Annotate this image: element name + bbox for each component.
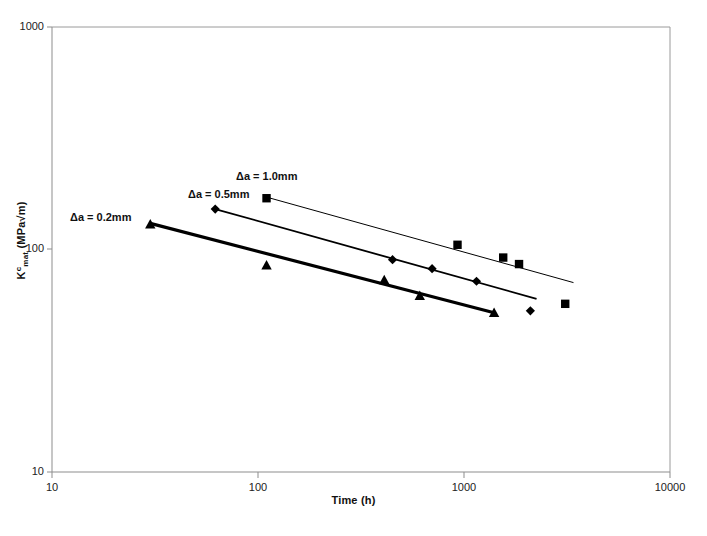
annotation-delta-a-1-0mm: Δa = 1.0mm (236, 170, 297, 182)
y-axis-title: Kcmat (MPa√m) (14, 160, 31, 320)
annotation-delta-a-0-2mm: Δa = 0.2mm (70, 211, 131, 223)
y-axis-title-subscript: mat (21, 252, 30, 267)
data-point-square (499, 253, 507, 261)
x-tick-label-10000: 10000 (640, 481, 700, 493)
data-point-square (453, 241, 461, 249)
x-tick-label-10: 10 (22, 481, 82, 493)
y-axis-title-superscript: c (14, 267, 23, 272)
y-axis-title-unit: (MPa√m) (15, 201, 27, 251)
y-tick-label-10: 10 (0, 465, 44, 477)
chart-figure (0, 0, 707, 536)
figure-background (0, 0, 707, 536)
data-point-square (262, 194, 270, 202)
data-point-square (561, 300, 569, 308)
annotation-delta-a-0-5mm: Δa = 0.5mm (188, 188, 249, 200)
x-tick-label-100: 100 (228, 481, 288, 493)
y-axis-title-symbol: K (15, 271, 27, 279)
x-axis-title: Time (h) (0, 494, 707, 506)
data-point-square (515, 260, 523, 268)
x-tick-label-1000: 1000 (434, 481, 494, 493)
chart-page: 1000 100 10 10 100 1000 10000 Time (h) K… (0, 0, 707, 536)
y-tick-label-1000: 1000 (0, 20, 44, 32)
